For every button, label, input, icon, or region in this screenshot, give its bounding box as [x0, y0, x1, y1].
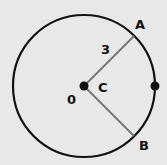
radius-cb — [84, 86, 134, 136]
center-point — [80, 82, 89, 91]
label-radius: 3 — [101, 42, 110, 57]
label-c: C — [98, 80, 108, 95]
right-point — [151, 82, 160, 91]
label-a: A — [135, 17, 145, 32]
diagram-canvas: A B C 3 0 — [0, 0, 167, 165]
label-angle: 0 — [67, 92, 76, 107]
circle-diagram: A B C 3 0 — [0, 0, 167, 165]
label-b: B — [139, 138, 149, 153]
